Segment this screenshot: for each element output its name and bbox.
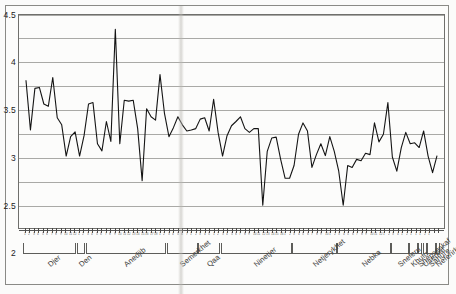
- x-axis-micro-label: 8: [244, 231, 246, 236]
- group-bracket: [86, 243, 166, 254]
- x-axis-micro-label: 18: [154, 231, 158, 236]
- x-axis-micro-label: 14: [136, 231, 140, 236]
- x-axis-micro-label: 4: [397, 231, 399, 236]
- x-axis-micro-label: 6: [235, 231, 237, 236]
- x-axis-micro-label: 8: [361, 231, 363, 236]
- x-axis-micro-label: 3: [87, 231, 89, 236]
- x-axis-micro-label: 11: [69, 231, 72, 236]
- group-bracket: [23, 243, 76, 254]
- x-axis-micro-label: 11: [374, 231, 377, 236]
- line-series-path: [19, 15, 444, 228]
- y-axis-tick-label: 4: [11, 57, 16, 67]
- x-axis-micro-label: 6: [307, 231, 309, 236]
- x-axis-micro-label: 6: [352, 231, 354, 236]
- x-axis-micro-label: 2: [406, 231, 408, 236]
- x-axis-micro-label: 12: [379, 231, 383, 236]
- x-axis-micro-label: 4: [91, 231, 93, 236]
- x-axis-micro-label: 9: [60, 231, 62, 236]
- x-axis-micro-label: 2: [217, 231, 219, 236]
- x-axis-micro-label: 7: [186, 231, 188, 236]
- x-axis-micro-label: 5: [347, 231, 349, 236]
- x-axis-micro-label: 4: [37, 231, 39, 236]
- x-axis-micro-label: 3: [199, 231, 201, 236]
- group-label-qaa: Qaa: [205, 253, 222, 269]
- x-axis-micro-label: 15: [275, 231, 279, 236]
- x-axis-micro-label: 5: [177, 231, 179, 236]
- x-axis-micro-label: 15: [141, 231, 145, 236]
- x-axis-micro-label: 6: [181, 231, 183, 236]
- x-axis-micro-label: 2: [195, 231, 197, 236]
- x-axis-micro-label: 7: [105, 231, 107, 236]
- x-axis-micro-label: 1: [213, 231, 215, 236]
- x-axis-micro-label: 5: [231, 231, 233, 236]
- x-axis-micro-label: 1: [24, 231, 26, 236]
- x-axis-micro-label: 8: [316, 231, 318, 236]
- x-axis-micro-label: 9: [320, 231, 322, 236]
- group-bracket: [77, 243, 85, 254]
- x-axis-micro-labels: 1234567891011121234567891011121314151617…: [18, 231, 445, 241]
- x-axis-micro-label: 12: [73, 231, 77, 236]
- y-axis-tick-label: 3.5: [4, 105, 16, 115]
- x-axis-micro-label: 3: [33, 231, 35, 236]
- figure-frame: 00.511.522.533.544.5 1234567891011121234…: [5, 5, 449, 285]
- group-bracket: [221, 243, 292, 254]
- x-axis-micro-label: 1: [383, 231, 385, 236]
- x-axis-micro-label: 4: [172, 231, 174, 236]
- x-axis-micro-label: 7: [356, 231, 358, 236]
- x-axis-micro-label: 3: [338, 231, 340, 236]
- x-axis-micro-label: 12: [262, 231, 266, 236]
- x-axis-micro-label: 2: [424, 231, 426, 236]
- y-axis-tick-label: 2.5: [4, 201, 16, 211]
- x-axis-micro-label: 5: [208, 231, 210, 236]
- x-axis-group-labels: DjerDenAnedjibSemerkhetQaaNinetjerNetjer…: [18, 256, 445, 294]
- x-axis-micro-label: 9: [248, 231, 250, 236]
- x-axis-micro-label: 1: [410, 231, 412, 236]
- x-axis-micro-label: 11: [123, 231, 126, 236]
- x-axis-micro-label: 2: [289, 231, 291, 236]
- x-axis-micro-label: 16: [280, 231, 284, 236]
- x-axis-micro-label: 4: [204, 231, 206, 236]
- x-axis-micro-label: 2: [334, 231, 336, 236]
- x-axis-micro-label: 8: [55, 231, 57, 236]
- x-axis-micro-label: 9: [114, 231, 116, 236]
- x-axis-micro-label: 16: [145, 231, 149, 236]
- group-label-djer: Djer: [46, 253, 63, 269]
- x-axis-micro-label: 1: [401, 231, 403, 236]
- x-axis-micro-label: 7: [311, 231, 313, 236]
- x-axis-micro-label: 11: [257, 231, 260, 236]
- x-axis-micro-label: 10: [118, 231, 122, 236]
- x-axis-micro-label: 8: [109, 231, 111, 236]
- x-axis-micro-label: 3: [168, 231, 170, 236]
- x-axis-micro-label: 1: [284, 231, 286, 236]
- x-axis-micro-label: 9: [365, 231, 367, 236]
- x-axis-micro-label: 3: [222, 231, 224, 236]
- x-axis-micro-label: 3: [293, 231, 295, 236]
- x-axis-micro-label: 12: [127, 231, 131, 236]
- x-axis-micro-label: 1: [78, 231, 80, 236]
- x-axis-micro-label: 1: [428, 231, 430, 236]
- x-axis-micro-label: 2: [388, 231, 390, 236]
- x-axis-micro-label: 10: [253, 231, 257, 236]
- x-axis-micro-label: 1: [190, 231, 192, 236]
- y-axis-tick-label: 3: [11, 153, 16, 163]
- x-axis-micro-label: 1: [419, 231, 421, 236]
- x-axis-micro-label: 14: [271, 231, 275, 236]
- x-axis-micro-label: 10: [64, 231, 68, 236]
- x-axis-micro-label: 2: [28, 231, 30, 236]
- x-axis-micro-label: 3: [392, 231, 394, 236]
- x-axis-micro-label: 4: [298, 231, 300, 236]
- x-axis-micro-label: 10: [325, 231, 329, 236]
- plot-area: 00.511.522.533.544.5: [18, 14, 445, 229]
- y-axis-tick-label: 2: [11, 248, 16, 258]
- x-axis-micro-label: 2: [82, 231, 84, 236]
- x-axis-micro-label: 1: [415, 231, 417, 236]
- x-axis-micro-label: 1: [159, 231, 161, 236]
- x-axis-micro-label: 7: [51, 231, 53, 236]
- x-axis-micro-label: 1: [329, 231, 331, 236]
- x-axis-micro-label: 13: [132, 231, 136, 236]
- x-axis-micro-label: 5: [96, 231, 98, 236]
- x-axis-micro-label: 5: [302, 231, 304, 236]
- chart-page: 00.511.522.533.544.5 1234567891011121234…: [0, 0, 456, 294]
- x-axis-micro-label: 10: [370, 231, 374, 236]
- x-axis-micro-label: 6: [100, 231, 102, 236]
